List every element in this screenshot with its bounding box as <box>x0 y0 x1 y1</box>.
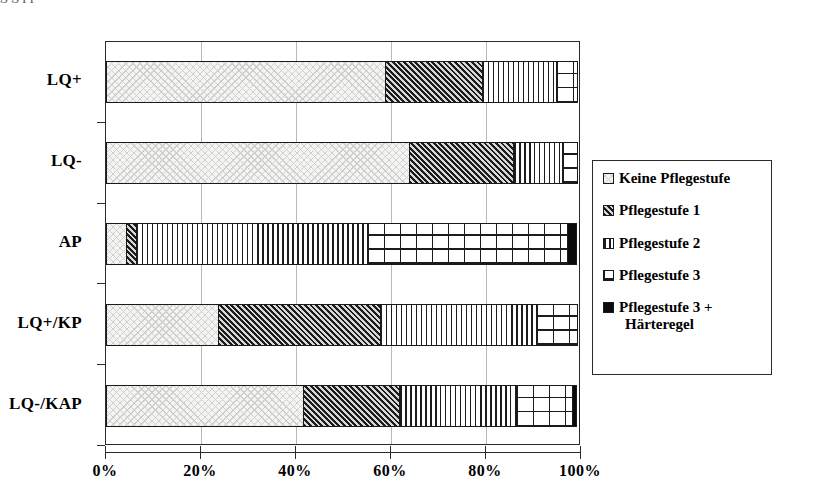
legend-label: Pflegestufe 1 <box>619 202 700 219</box>
x-axis-label-0: 0% <box>93 462 118 480</box>
legend-label: Pflegestufe 3 +Härteregel <box>619 299 713 334</box>
y-axis-tick <box>97 445 105 446</box>
bar-lq- <box>106 61 581 103</box>
bar-segment-grid <box>516 385 573 427</box>
bar-segment-diagonal <box>303 385 400 427</box>
legend-label-line2: Härteregel <box>619 316 713 333</box>
legend-swatch-vertical-icon <box>603 238 614 249</box>
bar-segment-vertical <box>399 385 517 427</box>
y-axis-tick <box>97 203 105 204</box>
x-axis-tick <box>390 446 391 459</box>
x-axis-label-40: 40% <box>278 462 312 480</box>
legend-swatch-grid-icon <box>603 270 614 281</box>
bar-segment-dots <box>106 223 127 265</box>
legend-label: Pflegestufe 2 <box>619 235 700 252</box>
y-axis-labels: LQ+LQ-APLQ+/KPLQ-/KAP <box>0 41 96 445</box>
legend: Keine PflegestufePflegestufe 1Pflegestuf… <box>592 160 772 375</box>
y-axis-label-lq--kp: LQ+/KP <box>18 313 82 333</box>
legend-label: Keine Pflegestufe <box>619 170 730 187</box>
bar-segment-diagonal <box>385 61 483 103</box>
bar-segment-diagonal <box>409 142 514 184</box>
legend-item-3: Pflegestufe 2 <box>603 235 765 252</box>
bar-segment-grid <box>367 223 569 265</box>
legend-item-2: Pflegestufe 1 <box>603 202 765 219</box>
stacked-bar-chart: LQ+LQ-APLQ+/KPLQ-/KAP 0%20%40%60%80%100%… <box>0 0 819 503</box>
x-axis-tick <box>485 446 486 459</box>
bar-segment-vertical <box>136 223 368 265</box>
plot-area <box>105 41 580 445</box>
x-axis-label-20: 20% <box>183 462 217 480</box>
x-axis-label-60: 60% <box>373 462 407 480</box>
x-axis-tick <box>295 446 296 459</box>
bar-lq--kap <box>106 385 581 427</box>
bar-segment-grid <box>556 61 578 103</box>
bar-segment-grid <box>562 142 578 184</box>
bar-lq- <box>106 142 581 184</box>
bar-segment-dots <box>106 304 219 346</box>
bar-lq--kp <box>106 304 581 346</box>
x-axis-tick <box>580 446 581 459</box>
y-axis-tick <box>97 122 105 123</box>
bar-segment-vertical <box>482 61 557 103</box>
legend-swatch-dots-icon <box>603 173 614 184</box>
x-axis-tick <box>200 446 201 459</box>
x-axis-line <box>105 452 581 453</box>
bar-segment-dots <box>106 61 386 103</box>
bar-segment-black <box>567 223 577 265</box>
y-axis-label-lq--kap: LQ-/KAP <box>9 394 82 414</box>
legend-item-4: Pflegestufe 3 <box>603 267 765 284</box>
y-axis-tick <box>97 283 105 284</box>
legend-item-5: Pflegestufe 3 +Härteregel <box>603 299 765 334</box>
bar-segment-dots <box>106 142 410 184</box>
legend-label: Pflegestufe 3 <box>619 267 700 284</box>
bar-segment-vertical <box>380 304 537 346</box>
y-axis-label-lq-: LQ+ <box>47 70 82 90</box>
legend-swatch-black-icon <box>603 302 614 313</box>
bar-segment-dots <box>106 385 304 427</box>
y-axis-label-lq-: LQ- <box>51 151 82 171</box>
bar-segment-vertical <box>513 142 563 184</box>
legend-item-1: Keine Pflegestufe <box>603 170 765 187</box>
x-axis-label-80: 80% <box>468 462 502 480</box>
x-axis-label-100: 100% <box>559 462 601 480</box>
bar-ap <box>106 223 581 265</box>
legend-swatch-diagonal-icon <box>603 205 614 216</box>
y-axis-tick <box>97 364 105 365</box>
bar-segment-diagonal <box>218 304 381 346</box>
bar-segment-grid <box>536 304 578 346</box>
x-axis-tick <box>105 446 106 459</box>
y-axis-label-ap: AP <box>59 232 82 252</box>
bar-segment-black <box>572 385 577 427</box>
